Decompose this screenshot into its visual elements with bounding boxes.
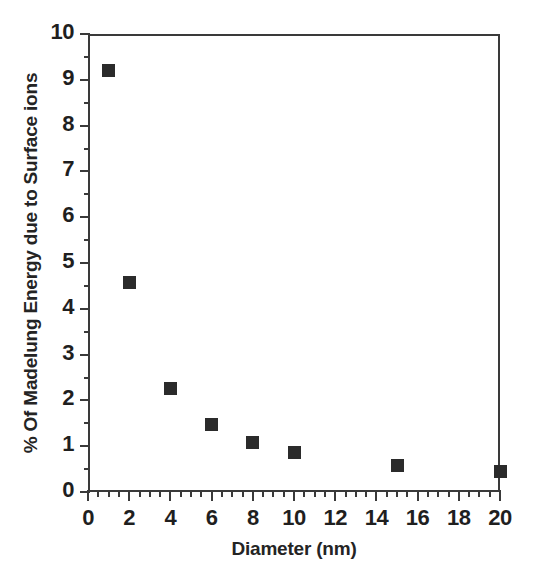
x-axis-minor-tick xyxy=(427,490,429,497)
x-axis-minor-tick xyxy=(283,490,285,497)
x-axis-minor-tick xyxy=(272,490,274,497)
x-axis-major-tick xyxy=(293,490,295,501)
x-axis-major-tick xyxy=(458,490,460,501)
x-axis-minor-tick xyxy=(448,490,450,497)
x-axis-major-tick xyxy=(375,490,377,501)
data-point xyxy=(123,276,136,289)
data-point xyxy=(164,382,177,395)
x-axis-minor-tick xyxy=(200,490,202,497)
data-point xyxy=(288,446,301,459)
y-axis-minor-tick xyxy=(84,193,90,195)
x-axis-minor-tick xyxy=(108,490,110,497)
x-axis-minor-tick xyxy=(365,490,367,497)
plot-area xyxy=(88,34,500,492)
x-axis-major-tick xyxy=(87,490,89,501)
x-axis-major-tick xyxy=(334,490,336,501)
y-axis-major-tick xyxy=(80,262,90,264)
y-axis-minor-tick xyxy=(84,285,90,287)
y-axis-minor-tick xyxy=(84,422,90,424)
x-axis-minor-tick xyxy=(355,490,357,497)
y-axis-major-tick xyxy=(80,216,90,218)
x-axis-major-tick xyxy=(499,490,501,501)
x-axis-minor-tick xyxy=(221,490,223,497)
y-axis-minor-tick xyxy=(84,239,90,241)
x-axis-minor-tick xyxy=(478,490,480,497)
x-axis-minor-tick xyxy=(386,490,388,497)
x-axis-minor-tick xyxy=(190,490,192,497)
x-axis-minor-tick xyxy=(242,490,244,497)
y-axis-major-tick xyxy=(80,445,90,447)
x-axis-minor-tick xyxy=(345,490,347,497)
x-axis-major-tick xyxy=(252,490,254,501)
x-axis-major-tick xyxy=(169,490,171,501)
y-axis-minor-tick xyxy=(84,377,90,379)
data-point xyxy=(391,459,404,472)
y-axis-major-tick xyxy=(80,125,90,127)
y-axis-minor-tick xyxy=(84,102,90,104)
y-axis-minor-tick xyxy=(84,468,90,470)
y-axis-major-tick xyxy=(80,33,90,35)
x-axis-major-tick xyxy=(128,490,130,501)
y-axis-label: % Of Madelung Energy due to Surface ions xyxy=(14,34,48,492)
x-axis-minor-tick xyxy=(180,490,182,497)
x-axis-minor-tick xyxy=(406,490,408,497)
x-axis-minor-tick xyxy=(118,490,120,497)
x-axis-minor-tick xyxy=(262,490,264,497)
x-axis-major-tick xyxy=(211,490,213,501)
x-axis-minor-tick xyxy=(468,490,470,497)
data-point xyxy=(205,418,218,431)
x-axis-label: Diameter (nm) xyxy=(88,538,500,560)
data-point xyxy=(494,465,507,478)
x-axis-minor-tick xyxy=(159,490,161,497)
y-axis-major-tick xyxy=(80,354,90,356)
x-axis-minor-tick xyxy=(489,490,491,497)
data-point xyxy=(102,64,115,77)
y-axis-minor-tick xyxy=(84,56,90,58)
x-axis-tick-label: 20 xyxy=(470,505,530,531)
x-axis-minor-tick xyxy=(324,490,326,497)
x-axis-minor-tick xyxy=(396,490,398,497)
x-axis-minor-tick xyxy=(437,490,439,497)
y-axis-major-tick xyxy=(80,399,90,401)
chart-figure: 01234567891002468101214161820 % Of Madel… xyxy=(0,0,536,581)
x-axis-minor-tick xyxy=(139,490,141,497)
x-axis-minor-tick xyxy=(314,490,316,497)
x-axis-major-tick xyxy=(417,490,419,501)
x-axis-minor-tick xyxy=(149,490,151,497)
x-axis-minor-tick xyxy=(97,490,99,497)
x-axis-minor-tick xyxy=(231,490,233,497)
y-axis-major-tick xyxy=(80,79,90,81)
y-axis-minor-tick xyxy=(84,148,90,150)
data-point xyxy=(246,436,259,449)
y-axis-major-tick xyxy=(80,170,90,172)
x-axis-minor-tick xyxy=(303,490,305,497)
y-axis-major-tick xyxy=(80,308,90,310)
y-axis-minor-tick xyxy=(84,331,90,333)
